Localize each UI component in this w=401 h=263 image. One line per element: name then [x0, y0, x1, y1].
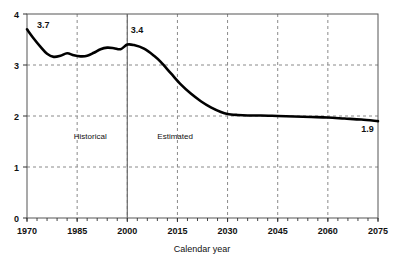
x-axis-tick-labels: 19701985200020152030204520602075	[17, 226, 388, 236]
x-axis-title: Calendar year	[174, 244, 231, 254]
historical-label: Historical	[74, 132, 107, 141]
y-tick-label: 3	[14, 61, 19, 71]
end-value-label: 1.9	[361, 124, 374, 134]
x-tick-label: 2075	[368, 226, 388, 236]
fertility-rate-chart: 19701985200020152030204520602075 01234 H…	[0, 0, 401, 263]
x-tick-label: 2060	[318, 226, 338, 236]
x-tick-label: 1970	[17, 226, 37, 236]
grid-lines	[27, 14, 378, 218]
x-tick-label: 2000	[117, 226, 137, 236]
y-tick-label: 0	[14, 214, 19, 224]
chart-canvas: 19701985200020152030204520602075 01234 H…	[0, 0, 401, 263]
x-axis-major-ticks	[27, 218, 378, 222]
chart-annotations: HistoricalEstimated3.73.41.9	[37, 20, 374, 141]
fertility-rate-line	[27, 29, 378, 121]
x-tick-label: 2030	[218, 226, 238, 236]
x-tick-label: 2045	[268, 226, 288, 236]
x-tick-label: 2015	[167, 226, 187, 236]
y-axis-tick-labels: 01234	[14, 10, 19, 224]
y-axis-major-ticks	[23, 14, 27, 218]
peak-value-label: 3.4	[131, 25, 144, 35]
x-tick-label: 1985	[67, 226, 87, 236]
start-value-label: 3.7	[37, 20, 50, 30]
y-tick-label: 2	[14, 112, 19, 122]
estimated-label: Estimated	[157, 132, 193, 141]
y-tick-label: 4	[14, 10, 19, 20]
y-tick-label: 1	[14, 163, 19, 173]
